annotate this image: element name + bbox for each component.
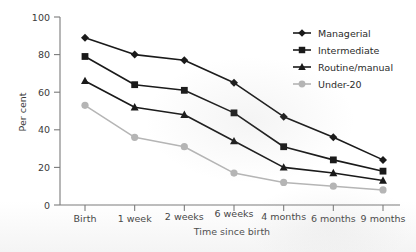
line-chart: 100806040200 Birth1 week2 weeks6 weeks4 … xyxy=(0,0,416,252)
diamond-marker xyxy=(379,156,387,164)
x-axis-tick-label: 6 months xyxy=(311,213,356,224)
circle-marker xyxy=(81,102,88,109)
series-line xyxy=(85,105,383,190)
legend-label: Routine/manual xyxy=(318,62,393,73)
y-axis-tick-label: 40 xyxy=(38,124,50,135)
x-axis-tick-label: 1 week xyxy=(118,213,153,224)
circle-marker xyxy=(379,186,386,193)
square-marker xyxy=(181,87,188,94)
y-axis-tick-label: 100 xyxy=(32,12,50,23)
legend-item[interactable]: Routine/manual xyxy=(293,62,393,73)
x-axis-tick-label: 9 months xyxy=(361,213,406,224)
x-axis-tick-labels: Birth1 week2 weeks6 weeks4 months6 month… xyxy=(74,208,406,224)
x-axis-tick-label: 4 months xyxy=(261,211,306,222)
triangle-marker xyxy=(131,103,139,110)
circle-marker xyxy=(181,143,188,150)
legend-label: Under-20 xyxy=(318,79,362,90)
diamond-marker xyxy=(180,56,188,64)
legend-item[interactable]: Intermediate xyxy=(293,45,379,56)
chart-series xyxy=(81,77,387,184)
diamond-marker xyxy=(329,133,337,141)
y-axis-tick-label: 80 xyxy=(38,49,50,60)
square-marker xyxy=(82,53,89,60)
diamond-marker xyxy=(81,34,89,42)
diamond-marker xyxy=(131,51,139,59)
square-marker xyxy=(231,109,238,116)
chart-container: 100806040200 Birth1 week2 weeks6 weeks4 … xyxy=(0,0,416,252)
circle-marker xyxy=(299,81,306,88)
circle-marker xyxy=(230,169,237,176)
x-axis-title: Time since birth xyxy=(193,226,270,237)
square-marker xyxy=(280,143,287,150)
circle-marker xyxy=(131,134,138,141)
legend-item[interactable]: Managerial xyxy=(293,28,371,39)
square-marker xyxy=(380,168,387,175)
legend-label: Managerial xyxy=(318,28,371,39)
triangle-marker xyxy=(280,163,288,170)
triangle-marker xyxy=(81,77,89,84)
chart-series-layer xyxy=(81,34,387,194)
series-line xyxy=(85,81,383,181)
y-axis-ticks: 100806040200 xyxy=(32,12,60,211)
x-axis-tick-label: 2 weeks xyxy=(165,211,204,222)
x-axis-tick-label: 6 weeks xyxy=(215,208,254,219)
y-axis-tick-label: 0 xyxy=(44,200,50,211)
y-axis-tick-label: 60 xyxy=(38,87,50,98)
legend-label: Intermediate xyxy=(318,45,379,56)
chart-legend: ManagerialIntermediateRoutine/manualUnde… xyxy=(293,28,393,90)
y-axis-title: Per cent xyxy=(17,92,28,131)
square-marker xyxy=(299,47,305,53)
diamond-marker xyxy=(298,29,306,37)
square-marker xyxy=(131,81,138,88)
circle-marker xyxy=(280,179,287,186)
triangle-marker xyxy=(230,137,238,144)
circle-marker xyxy=(330,183,337,190)
y-axis-tick-label: 20 xyxy=(38,162,50,173)
legend-item[interactable]: Under-20 xyxy=(293,79,362,90)
x-axis-tick-label: Birth xyxy=(74,213,97,224)
square-marker xyxy=(330,156,337,163)
